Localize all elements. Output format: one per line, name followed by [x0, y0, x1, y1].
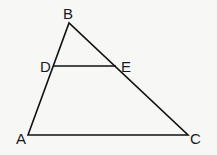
- label-e: E: [121, 58, 131, 75]
- triangle-diagram: B D E A C: [0, 0, 217, 155]
- triangle-abc: [28, 23, 188, 135]
- label-d: D: [40, 58, 51, 75]
- label-c: C: [190, 130, 201, 147]
- label-a: A: [16, 130, 26, 147]
- label-b: B: [63, 5, 73, 22]
